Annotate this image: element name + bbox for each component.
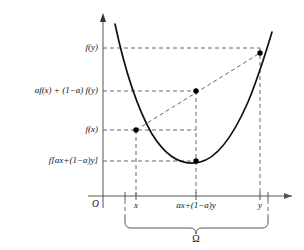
label-f-of-combination: f[ax+(1−a)y] <box>49 156 98 165</box>
label-f-x: f(x) <box>86 125 99 134</box>
point-y-marker <box>257 50 262 55</box>
point-curve-mid-marker <box>193 158 198 163</box>
label-y: y <box>254 201 266 210</box>
figure-canvas <box>0 0 304 250</box>
horizontal-guides-group <box>103 48 260 161</box>
convex-function-curve <box>115 24 272 163</box>
marked-points-group <box>133 50 262 163</box>
point-x-marker <box>133 127 138 132</box>
label-origin: O <box>92 200 99 210</box>
label-convex-combination-value: af(x) + (1−a) f(y) <box>35 86 98 95</box>
label-convex-combination: ax+(1−a)y <box>156 201 236 210</box>
label-f-y: f(y) <box>86 43 99 52</box>
vertical-guides-group <box>125 48 268 216</box>
label-x: x <box>130 201 142 210</box>
x-axis-arrow-icon <box>284 193 292 199</box>
convex-function-figure: f(y) af(x) + (1−a) f(y) f(x) f[ax+(1−a)y… <box>0 0 304 250</box>
y-axis-arrow-icon <box>100 13 106 22</box>
point-chord-mid-marker <box>193 88 198 93</box>
label-domain-omega: Ω <box>185 234 207 244</box>
domain-brace-icon <box>125 216 268 234</box>
